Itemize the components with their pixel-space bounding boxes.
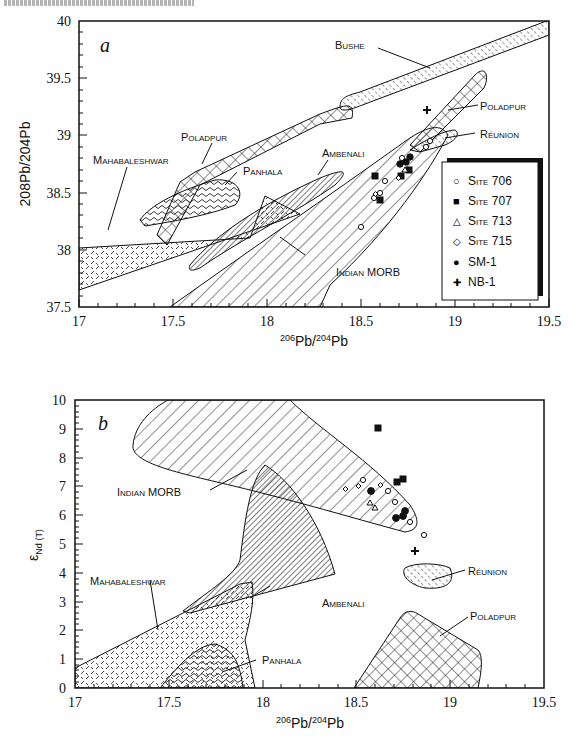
svg-text:39.5: 39.5	[47, 71, 72, 86]
legend-label-site-713: Site 713	[468, 214, 512, 228]
label-indian-morb-a: Indian MORB	[336, 266, 400, 278]
svg-text:19.5: 19.5	[537, 314, 562, 329]
y-tick-labels-b: 0 1 2 3 4 5 6 7 8 9 10	[52, 393, 66, 696]
panel-b: 17 17.5 18 18.5 19 19.5 0 1 2 3 4 5 6 7 …	[25, 393, 556, 731]
legend-label-site-706: Site 706	[468, 174, 512, 188]
panel-label-b: b	[98, 412, 108, 434]
svg-text:18: 18	[256, 695, 270, 710]
y-tick-labels-a: 37.5 38 38.5 39 39.5 40	[47, 14, 72, 315]
svg-text:10: 10	[52, 393, 66, 408]
svg-text:18.5: 18.5	[344, 695, 369, 710]
svg-text:6: 6	[59, 508, 66, 523]
x-axis-label-b: 206Pb/204Pb	[276, 715, 344, 731]
panel-a: 17 17.5 18 18.5 19 19.5 37.5 38 38.5 39 …	[17, 14, 561, 349]
svg-text:38: 38	[57, 243, 71, 258]
label-panhala-a: Panhala	[243, 165, 283, 177]
svg-text:5: 5	[59, 537, 66, 552]
label-poladpur-a-left: Poladpur	[181, 131, 227, 143]
label-ambenali-b: Ambenali	[322, 597, 364, 609]
legend-label-sm-1: SM-1	[468, 255, 497, 269]
legend-symbol-open-diamond: ◇	[453, 236, 461, 247]
field-indian-morb	[170, 128, 448, 307]
y-axis-label-b: εNd (T)	[25, 529, 44, 561]
svg-text:17: 17	[68, 695, 82, 710]
field-poladpur-b	[354, 611, 481, 688]
legend-symbol-filled-square: ■	[453, 195, 460, 207]
legend-symbol-plus: ✚	[453, 277, 461, 288]
svg-text:17.5: 17.5	[157, 695, 182, 710]
label-bushe-a: Bushe	[335, 39, 365, 51]
label-reunion-a: Réunion	[480, 128, 519, 140]
svg-text:17: 17	[72, 314, 86, 329]
svg-text:17.5: 17.5	[161, 314, 186, 329]
svg-text:19: 19	[448, 314, 462, 329]
legend-symbol-filled-circle: ●	[453, 256, 460, 268]
legend-label-site-715: Site 715	[468, 234, 512, 248]
svg-text:1: 1	[59, 652, 66, 667]
svg-text:2: 2	[59, 623, 66, 638]
label-panhala-b: Panhala	[262, 654, 302, 666]
svg-text:9: 9	[59, 422, 66, 437]
svg-text:18.5: 18.5	[349, 314, 374, 329]
svg-text:4: 4	[59, 566, 66, 581]
svg-text:7: 7	[59, 479, 66, 494]
svg-text:18: 18	[260, 314, 274, 329]
label-mahabaleshwar-a: Mahabaleshwar	[93, 154, 169, 166]
svg-text:40: 40	[57, 14, 71, 29]
field-bushe	[340, 20, 549, 110]
svg-text:19: 19	[443, 695, 457, 710]
x-tick-labels-b: 17 17.5 18 18.5 19 19.5	[68, 695, 556, 710]
svg-text:19.5: 19.5	[532, 695, 557, 710]
label-ambenali-a: Ambenali	[322, 147, 364, 159]
label-poladpur-b: Poladpur	[470, 610, 516, 622]
label-indian-morb-b: Indian MORB	[117, 486, 181, 498]
legend-symbol-open-triangle: △	[453, 216, 461, 227]
svg-text:37.5: 37.5	[47, 300, 72, 315]
panel-label-a: a	[100, 34, 110, 56]
svg-text:3: 3	[59, 595, 66, 610]
y-axis-label-a: 208Pb/204Pb	[17, 121, 33, 206]
x-tick-labels-a: 17 17.5 18 18.5 19 19.5	[72, 314, 561, 329]
label-reunion-b: Réunion	[468, 565, 507, 577]
svg-text:38.5: 38.5	[47, 186, 72, 201]
label-mahabaleshwar-b: Mahabaleshwar	[90, 575, 166, 587]
legend-a: ○ Site 706 ■ Site 707 △ Site 713 ◇ Site …	[442, 158, 543, 300]
svg-text:8: 8	[59, 451, 66, 466]
figure: 17 17.5 18 18.5 19 19.5 37.5 38 38.5 39 …	[0, 0, 573, 736]
x-axis-label-a: 206Pb/204Pb	[280, 333, 348, 349]
legend-symbol-open-circle: ○	[453, 175, 460, 187]
svg-text:0: 0	[59, 681, 66, 696]
label-poladpur-a-right: Poladpur	[480, 100, 526, 112]
legend-label-site-707: Site 707	[468, 194, 512, 208]
svg-text:39: 39	[57, 128, 71, 143]
legend-label-nb-1: NB-1	[468, 275, 496, 289]
